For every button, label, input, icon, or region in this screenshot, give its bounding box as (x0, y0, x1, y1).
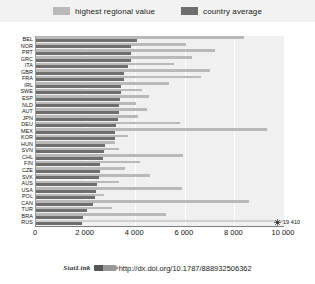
bar-row (36, 147, 284, 153)
y-axis-labels: BELNORPRTGRCITAGBRFRAIRLSWEESPNLDAUTJPND… (0, 36, 34, 226)
y-axis-label-aut: AUT (22, 108, 33, 114)
bar-row (36, 69, 284, 75)
x-axis-line (35, 226, 284, 227)
x-tick-label-6000: 6 000 (174, 228, 193, 237)
y-axis-label-can: CAN (21, 200, 33, 206)
bar-country-average (36, 72, 124, 75)
bar-country-average (36, 52, 131, 55)
y-axis-label-irl: IRL (24, 82, 33, 88)
x-axis-ticks: 02 0004 0006 0008 00010 000 (0, 228, 315, 242)
statlink-arrow-icon (94, 265, 116, 271)
bar-rows: 19 410 (36, 36, 284, 226)
bar-row (36, 154, 284, 160)
bar-country-average (36, 163, 100, 166)
axis-break-value-label: 19 410 (283, 219, 300, 225)
legend-label-highest-regional-value: highest regional value (75, 7, 155, 16)
y-axis-label-fra: FRA (22, 75, 33, 81)
gridline-10000 (284, 36, 285, 226)
y-axis-label-aus: AUS (22, 180, 33, 186)
bar-country-average (36, 203, 93, 206)
bar-country-average (36, 91, 121, 94)
bar-country-average (36, 137, 115, 140)
bar-country-average (36, 150, 104, 153)
y-axis-label-tur: TUR (22, 206, 33, 212)
bar-row (36, 115, 284, 121)
bar-row (36, 95, 284, 101)
bar-country-average (36, 209, 87, 212)
bar-country-average (36, 118, 118, 121)
y-axis-label-chl: CHL (22, 154, 33, 160)
bar-row (36, 56, 284, 62)
y-axis-label-deu: DEU (21, 121, 33, 127)
bar-row (36, 75, 284, 81)
bar-row (36, 167, 284, 173)
y-axis-label-kor: KOR (21, 134, 33, 140)
chart-legend: highest regional value country average (0, 0, 315, 22)
bar-row (36, 128, 284, 134)
bar-country-average (36, 216, 83, 219)
bar-country-average (36, 45, 131, 48)
y-axis-label-rus: RUS (21, 219, 33, 225)
y-axis-label-esp: ESP (22, 95, 33, 101)
bar-country-average (36, 124, 116, 127)
bar-country-average (36, 98, 120, 101)
bar-row (36, 82, 284, 88)
bar-country-average (36, 39, 137, 42)
bar-row (36, 43, 284, 49)
statlink-url[interactable]: http://dx.doi.org/10.1787/888932506362 (119, 264, 252, 273)
bar-country-average (36, 104, 119, 107)
bar-row (36, 193, 284, 199)
bar-row (36, 141, 284, 147)
bar-row (36, 108, 284, 114)
bar-row (36, 134, 284, 140)
bar-row (36, 36, 284, 42)
bar-country-average (36, 183, 97, 186)
bar-row (36, 213, 284, 219)
y-axis-label-nld: NLD (22, 102, 33, 108)
bar-country-average (36, 131, 115, 134)
y-axis-label-mex: MEX (21, 128, 33, 134)
bar-country-average (36, 111, 119, 114)
statlink-footer: StatLink http://dx.doi.org/10.1787/88893… (0, 261, 315, 275)
y-axis-label-svn: SVN (22, 147, 33, 153)
y-axis-label-bel: BEL (23, 36, 34, 42)
bar-country-average (36, 85, 121, 88)
bar-country-average (36, 190, 96, 193)
y-axis-label-jpn: JPN (23, 115, 33, 121)
y-axis-label-grc: GRC (21, 56, 33, 62)
bar-row (36, 180, 284, 186)
y-axis-label-fin: FIN (24, 160, 33, 166)
bar-country-average (36, 144, 105, 147)
x-tick-label-2000: 2 000 (75, 228, 94, 237)
x-tick-label-8000: 8 000 (224, 228, 243, 237)
plot-area: 19 410 (35, 36, 284, 226)
x-tick-label-0: 0 (33, 228, 37, 237)
bar-country-average (36, 59, 131, 62)
y-axis-label-cze: CZE (22, 167, 33, 173)
y-axis-label-hun: HUN (21, 141, 33, 147)
y-axis-label-ita: ITA (25, 62, 33, 68)
bar-row (36, 88, 284, 94)
bar-row (36, 174, 284, 180)
y-axis-label-nor: NOR (21, 43, 33, 49)
legend-label-country-average: country average (203, 7, 262, 16)
bar-row (36, 102, 284, 108)
bar-country-average (36, 196, 95, 199)
y-axis-label-gbr: GBR (21, 69, 33, 75)
legend-swatch-country-average (181, 7, 198, 15)
y-axis-label-svk: SVK (22, 174, 33, 180)
bar-row (36, 200, 284, 206)
chart-figure: highest regional value country average 1… (0, 0, 315, 284)
bar-country-average (36, 157, 103, 160)
x-tick-label-10000: 10 000 (272, 228, 295, 237)
bar-row (36, 187, 284, 193)
bar-row (36, 206, 284, 212)
bar-country-average (36, 65, 128, 68)
bar-row (36, 219, 284, 225)
bar-country-average (36, 176, 99, 179)
bar-country-average (36, 170, 100, 173)
legend-item-highest-regional-value: highest regional value (53, 7, 155, 16)
y-axis-label-bra: BRA (22, 213, 33, 219)
x-tick-label-4000: 4 000 (125, 228, 144, 237)
y-axis-label-prt: PRT (22, 49, 33, 55)
